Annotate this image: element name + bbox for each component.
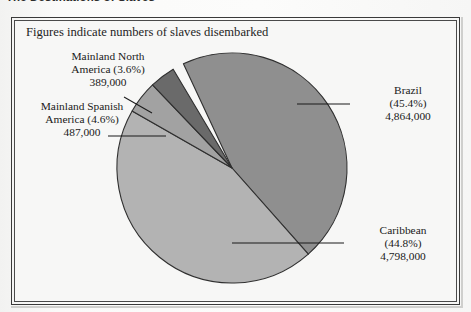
label-msa-value: 487,000 — [14, 126, 150, 139]
label-caribbean-percent: (44.8%) — [348, 237, 458, 250]
screenshot-root: The Destinations of Slaves Figures indic… — [0, 0, 471, 312]
label-brazil-percent: (45.4%) — [356, 97, 460, 110]
label-caribbean: Caribbean (44.8%) 4,798,000 — [348, 224, 458, 264]
label-brazil-name: Brazil — [356, 84, 460, 97]
label-mna-line2: America (3.6%) — [48, 63, 168, 76]
label-mainland-spanish-america: Mainland Spanish America (4.6%) 487,000 — [14, 100, 150, 140]
label-brazil-value: 4,864,000 — [356, 110, 460, 123]
pie-chart — [0, 0, 471, 312]
label-msa-line1: Mainland Spanish — [14, 100, 150, 113]
label-msa-line2: America (4.6%) — [14, 113, 150, 126]
label-caribbean-name: Caribbean — [348, 224, 458, 237]
chart-stage: Mainland North America (3.6%) 389,000 Ma… — [0, 0, 471, 312]
label-brazil: Brazil (45.4%) 4,864,000 — [356, 84, 460, 124]
label-caribbean-value: 4,798,000 — [348, 250, 458, 263]
label-mna-value: 389,000 — [48, 76, 168, 89]
label-mainland-north-america: Mainland North America (3.6%) 389,000 — [48, 50, 168, 90]
label-mna-line1: Mainland North — [48, 50, 168, 63]
